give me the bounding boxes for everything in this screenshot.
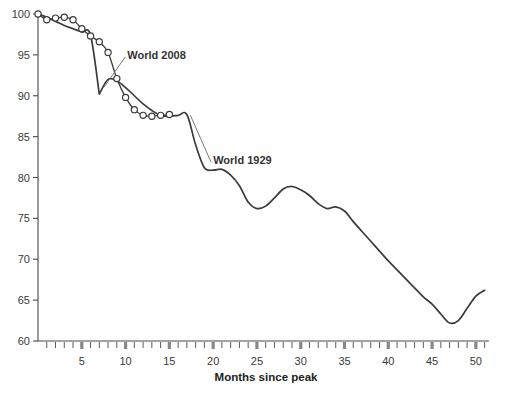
y-tick-label: 100 — [12, 8, 30, 20]
x-tick-label: 40 — [382, 355, 394, 367]
data-point-marker — [35, 11, 41, 17]
series-label-world-2008: World 2008 — [127, 49, 186, 61]
data-point-marker — [79, 26, 85, 32]
y-tick-label: 70 — [18, 253, 30, 265]
y-tick-label: 75 — [18, 212, 30, 224]
y-tick-label: 90 — [18, 90, 30, 102]
data-point-marker — [70, 17, 76, 23]
y-axis-ticks — [33, 14, 38, 341]
x-tick-label: 10 — [119, 355, 131, 367]
series-label-world-1929: World 1929 — [213, 154, 272, 166]
data-point-marker — [166, 111, 172, 117]
series-line-world-2008 — [38, 14, 169, 116]
y-tick-label: 65 — [18, 294, 30, 306]
data-point-marker — [149, 113, 155, 119]
y-tick-label: 80 — [18, 172, 30, 184]
x-tick-label: 45 — [426, 355, 438, 367]
world-output-index-line-chart: 6065707580859095100 5101520253035404550 … — [0, 0, 507, 397]
annotation-world-1929: World 1929 — [190, 115, 271, 166]
x-axis-ticks — [47, 342, 485, 349]
chart-container: 6065707580859095100 5101520253035404550 … — [0, 0, 507, 397]
axis-lines — [38, 14, 489, 341]
data-point-marker — [87, 33, 93, 39]
leader-line-world-2008 — [104, 57, 126, 88]
data-point-marker — [158, 112, 164, 118]
x-tick-label: 5 — [79, 355, 85, 367]
y-tick-label: 85 — [18, 131, 30, 143]
y-tick-label: 60 — [18, 335, 30, 347]
series-markers-world-2008 — [35, 11, 173, 119]
y-axis-tick-labels: 6065707580859095100 — [12, 8, 30, 347]
series-line-world-1929 — [38, 14, 485, 323]
x-tick-label: 50 — [470, 355, 482, 367]
y-tick-label: 95 — [18, 49, 30, 61]
data-point-marker — [96, 39, 102, 45]
x-tick-label: 15 — [163, 355, 175, 367]
data-point-marker — [122, 94, 128, 100]
data-point-marker — [61, 14, 67, 20]
x-tick-label: 25 — [251, 355, 263, 367]
x-tick-label: 35 — [338, 355, 350, 367]
data-point-marker — [114, 75, 120, 81]
x-axis-title: Months since peak — [215, 371, 318, 383]
data-point-marker — [44, 17, 50, 23]
x-tick-label: 30 — [295, 355, 307, 367]
data-point-marker — [52, 15, 58, 21]
data-point-marker — [140, 112, 146, 118]
data-point-marker — [105, 49, 111, 55]
data-point-marker — [131, 107, 137, 113]
x-axis-tick-labels: 5101520253035404550 — [79, 355, 482, 367]
x-tick-label: 20 — [207, 355, 219, 367]
